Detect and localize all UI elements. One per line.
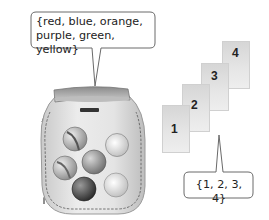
- colors-set-line-1: {red, blue, orange,: [36, 15, 154, 29]
- colors-set-line-2: purple, green, yellow}: [36, 29, 154, 57]
- card-2-label: 2: [191, 98, 198, 112]
- card-3-label: 3: [211, 69, 218, 83]
- numbers-set-label: {1, 2, 3, 4}: [188, 178, 250, 206]
- card-1-label: 1: [171, 122, 178, 136]
- number-card-1: 1: [162, 105, 190, 153]
- card-4-label: 4: [232, 46, 239, 60]
- colors-set-label: {red, blue, orange, purple, green, yello…: [36, 15, 154, 57]
